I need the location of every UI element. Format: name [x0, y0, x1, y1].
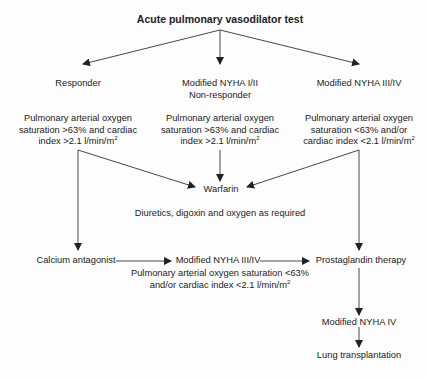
- lung-transplant-node: Lung transplantation: [317, 350, 401, 362]
- criteria-line: cardiac index <2.1 l/min/m2: [303, 136, 415, 148]
- criteria-line: saturation <63% and/or: [303, 125, 415, 137]
- arrow-to-nyha-iii-iv: [220, 30, 359, 64]
- diagram-title: Acute pulmonary vasodilator test: [137, 14, 303, 26]
- nyha-iv-node: Modified NYHA IV: [322, 317, 396, 329]
- criteria-line: Pulmonary arterial oxygen: [19, 113, 137, 125]
- responder-label: Responder: [55, 78, 100, 90]
- supportive-therapy-note: Diuretics, digoxin and oxygen as require…: [135, 208, 306, 220]
- criteria-line: index >2.1 l/min/m2: [161, 136, 279, 148]
- arrow-responder-to-warfarin: [78, 150, 195, 187]
- criteria-line: saturation >63% and cardiac: [161, 125, 279, 137]
- criteria-line: and/or cardiac index <2.1 l/min/m2: [131, 280, 309, 292]
- nonresponder-label-line1: Modified NYHA I/II: [182, 78, 258, 90]
- nonresponder-label-line2: Non-responder: [182, 90, 258, 102]
- mid-criteria: Pulmonary arterial oxygen saturation <63…: [131, 268, 309, 291]
- nonresponder-criteria: Pulmonary arterial oxygen saturation >63…: [161, 113, 279, 148]
- mid-nyha-node: Modified NYHA III/IV: [176, 255, 261, 267]
- responder-criteria: Pulmonary arterial oxygen saturation >63…: [19, 113, 137, 148]
- arrow-nyha-to-warfarin: [247, 150, 359, 187]
- prostaglandin-node: Prostaglandin therapy: [316, 255, 406, 267]
- calcium-antagonist-node: Calcium antagonist: [36, 255, 115, 267]
- criteria-line: Pulmonary arterial oxygen saturation <63…: [131, 268, 309, 280]
- nyha-iii-iv-criteria: Pulmonary arterial oxygen saturation <63…: [303, 113, 415, 148]
- criteria-line: saturation >63% and cardiac: [19, 125, 137, 137]
- nyha-iii-iv-label: Modified NYHA III/IV: [317, 78, 402, 90]
- warfarin-node: Warfarin: [204, 184, 239, 196]
- criteria-line: Pulmonary arterial oxygen: [161, 113, 279, 125]
- nonresponder-label: Modified NYHA I/II Non-responder: [182, 78, 258, 101]
- criteria-line: index >2.1 l/min/m2: [19, 136, 137, 148]
- arrow-to-responder: [83, 30, 220, 64]
- criteria-line: Pulmonary arterial oxygen: [303, 113, 415, 125]
